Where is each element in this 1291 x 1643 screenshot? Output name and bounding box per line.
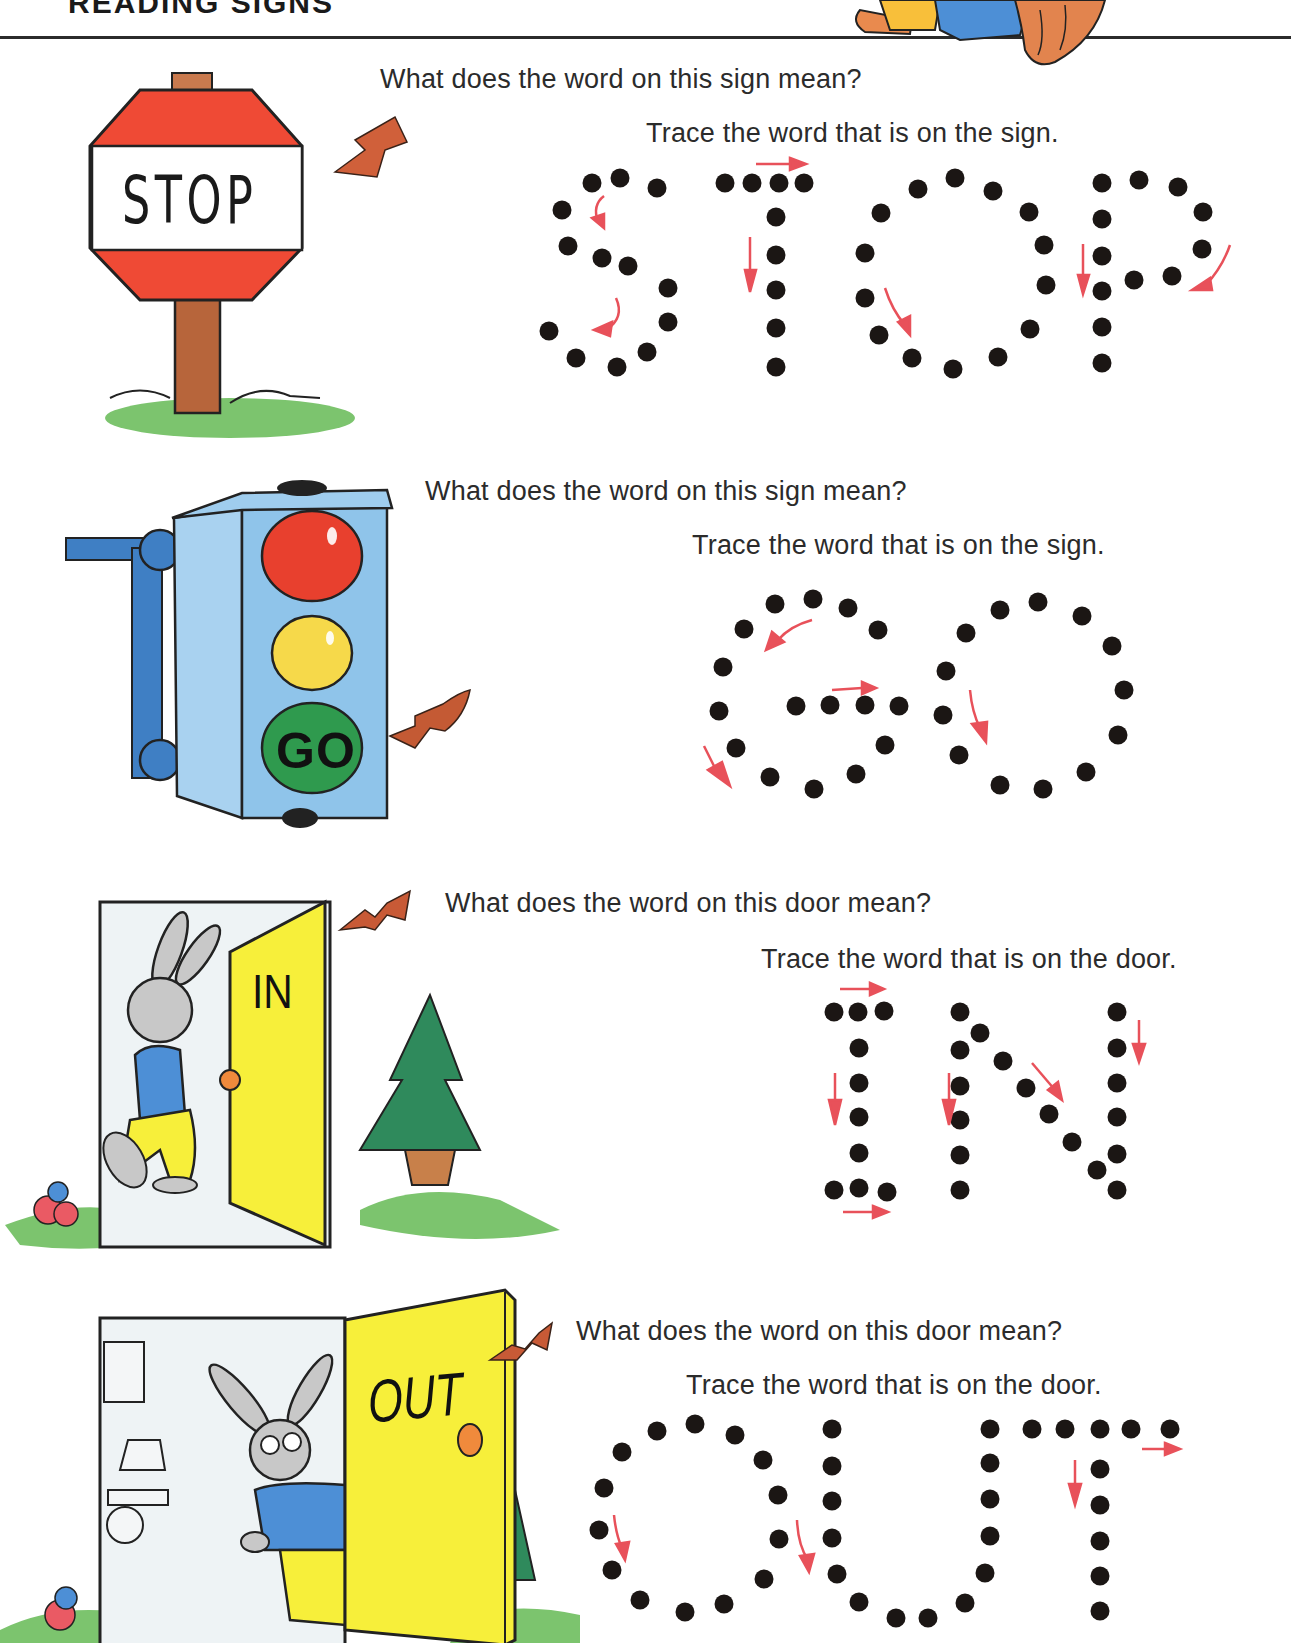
guide-arrows-icon bbox=[0, 0, 1291, 1643]
trace-word-out[interactable] bbox=[0, 0, 1291, 1643]
